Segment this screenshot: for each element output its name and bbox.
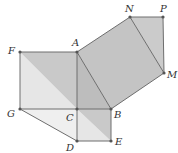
geometry-diagram: F A N P M B C G D E — [0, 0, 178, 153]
label-n: N — [124, 3, 135, 14]
label-g: G — [7, 108, 15, 119]
label-d: D — [65, 142, 74, 153]
vertex-f — [18, 50, 21, 53]
label-m: M — [166, 69, 178, 80]
vertex-m — [162, 71, 165, 74]
vertex-g — [18, 107, 21, 110]
vertex-n — [128, 15, 131, 18]
diagram-canvas: F A N P M B C G D E — [0, 0, 178, 153]
vertex-e — [109, 139, 112, 142]
vertex-d — [75, 139, 78, 142]
label-b: B — [113, 109, 121, 120]
label-p: P — [159, 3, 167, 14]
vertex-p — [161, 15, 164, 18]
label-f: F — [7, 45, 16, 56]
vertex-c — [75, 107, 78, 110]
vertex-b — [109, 107, 112, 110]
label-a: A — [71, 37, 79, 48]
label-e: E — [114, 136, 123, 147]
vertex-a — [75, 50, 78, 53]
label-c: C — [66, 112, 74, 123]
